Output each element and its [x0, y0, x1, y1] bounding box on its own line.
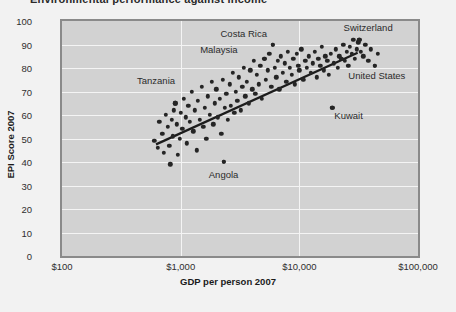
annotation-costa-rica: Costa Rica [221, 27, 267, 38]
x-axis-tick-label: $100,000 [398, 261, 438, 272]
annotation-malaysia: Malaysia [200, 44, 238, 55]
y-axis-tick-label: 20 [0, 204, 32, 215]
x-axis-tick-label: $100 [51, 261, 72, 272]
annotation-kuwait: Kuwait [334, 110, 363, 121]
annotation-angola: Angola [209, 168, 239, 179]
y-axis-tick-label: 80 [0, 63, 32, 74]
x-axis-tick-label: $10,000 [282, 261, 316, 272]
x-axis-label: GDP per person 2007 [0, 276, 456, 287]
annotation-united-states: United States [348, 70, 405, 81]
y-axis-tick-label: 100 [0, 16, 32, 27]
y-axis-tick-label: 0 [0, 251, 32, 262]
y-axis-tick-label: 70 [0, 86, 32, 97]
y-axis-tick-label: 90 [0, 39, 32, 50]
plot-area: SwitzerlandCosta RicaMalaysiaTanzaniaUni… [60, 19, 420, 258]
annotation-switzerland: Switzerland [344, 21, 393, 32]
chart-figure: Environmental performance against income… [0, 0, 456, 312]
chart-title: Environmental performance against income [30, 0, 267, 5]
x-axis-tick-label: $1,000 [166, 261, 195, 272]
annotation-tanzania: Tanzania [137, 74, 175, 85]
y-axis-tick-label: 10 [0, 227, 32, 238]
y-axis-label: EPI Score 2007 [5, 110, 16, 178]
y-axis-tick-label: 30 [0, 180, 32, 191]
